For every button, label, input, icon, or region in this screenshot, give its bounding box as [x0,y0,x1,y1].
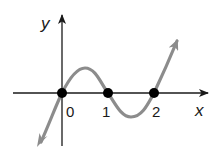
y-axis-label: y [40,14,51,33]
tick-label-1: 1 [102,103,110,120]
x-axis-label: x [194,101,204,120]
tick-label-0: 0 [66,103,74,120]
zero-point-0 [57,88,67,98]
cubic-graph: y x 0 1 2 [0,0,215,154]
zero-point-1 [103,88,113,98]
zero-point-2 [149,88,159,98]
curve-arrow-down-left-icon [37,133,48,147]
tick-label-2: 2 [152,103,160,120]
